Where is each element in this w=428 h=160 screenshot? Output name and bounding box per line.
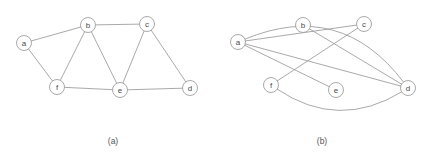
panel-a: abcdef(a) [17,17,198,147]
node-a[interactable]: a [17,36,32,51]
edge-a-b [31,27,81,41]
node-e[interactable]: e [329,83,344,98]
node-d[interactable]: d [401,81,416,96]
graph-figure: abcdef(a)abcdef(b) [0,0,428,160]
node-circle-f [264,78,279,93]
edge-b-f [60,32,84,81]
graph-canvas: abcdef(a)abcdef(b) [0,0,428,160]
edge-c-d [151,30,186,82]
edge-e-d [127,88,182,90]
node-c[interactable]: c [357,17,372,32]
node-circle-c [357,17,372,32]
edge-c-f [277,28,357,81]
node-d[interactable]: d [183,81,198,96]
node-circle-a [17,36,32,51]
node-e[interactable]: e [113,83,128,98]
node-layer: abcdef [17,17,198,98]
node-f[interactable]: f [264,78,279,93]
caption-panel-a: (a) [108,136,119,146]
node-circle-a [231,35,246,50]
edge-layer [245,25,404,110]
node-circle-c [140,17,155,32]
node-circle-e [329,83,344,98]
node-c[interactable]: c [140,17,155,32]
node-circle-d [183,81,198,96]
edge-b-e [91,32,116,84]
node-circle-d [401,81,416,96]
node-layer: abcdef [231,17,416,98]
node-b[interactable]: b [81,18,96,33]
node-a[interactable]: a [231,35,246,50]
edge-f-e [64,87,112,89]
edge-a-f [29,49,53,81]
edge-a-d [245,26,404,82]
edge-b-d [309,29,401,84]
edge-b-c [95,24,139,25]
node-circle-b [296,18,311,33]
node-circle-e [113,83,128,98]
caption-panel-b: (b) [317,136,328,146]
edge-c-e [123,31,144,83]
panel-b: abcdef(b) [231,17,416,147]
node-circle-b [81,18,96,33]
edge-a-e [245,45,330,86]
node-circle-f [50,80,65,95]
edge-layer [29,24,186,90]
node-b[interactable]: b [296,18,311,33]
node-f[interactable]: f [50,80,65,95]
